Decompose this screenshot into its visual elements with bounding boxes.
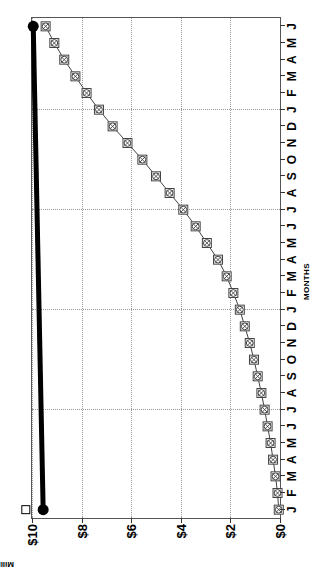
x-axis-tick-mark: [280, 75, 285, 76]
x-axis-tick-mark: [280, 309, 285, 310]
y-axis-tick-mark: [181, 518, 182, 523]
x-axis-tick-mark: [280, 242, 285, 243]
y-axis-tick-mark: [280, 518, 281, 523]
data-point-marker: [28, 21, 39, 32]
x-axis-tick-mark: [280, 59, 285, 60]
x-axis-tick-label: A: [285, 389, 299, 398]
x-axis-tick-mark: [280, 192, 285, 193]
x-axis-tick-mark: [280, 292, 285, 293]
x-axis-tick-label: A: [285, 189, 299, 198]
x-axis-tick-mark: [280, 275, 285, 276]
x-axis-tick-label: M: [285, 38, 299, 48]
x-axis-tick-mark: [280, 159, 285, 160]
x-axis-tick-mark: [280, 109, 285, 110]
x-axis-tick-label: M: [285, 438, 299, 448]
y-axis-tick-mark: [82, 518, 83, 523]
y-axis-tick-mark: [32, 518, 33, 523]
x-axis-tick-mark: [280, 425, 285, 426]
x-axis-tick-label: M: [285, 238, 299, 248]
x-axis-tick-label: A: [285, 255, 299, 264]
x-axis-tick-label: J: [285, 506, 299, 513]
x-axis-tick-label: F: [285, 89, 299, 96]
x-axis-tick-label: O: [285, 355, 299, 364]
x-axis-tick-label: J: [285, 23, 299, 30]
x-axis-tick-label: S: [285, 172, 299, 180]
x-axis-tick-mark: [280, 25, 285, 26]
y-axis-tick-label: $0: [273, 524, 288, 538]
x-axis-tick-label: F: [285, 489, 299, 496]
x-axis-tick-label: F: [285, 289, 299, 296]
x-axis-tick-mark: [280, 225, 285, 226]
x-axis-tick-label: D: [285, 322, 299, 331]
x-axis-tick-mark: [280, 492, 285, 493]
x-axis-tick-mark: [280, 209, 285, 210]
x-axis-tick-label: J: [285, 206, 299, 213]
x-axis-tick-mark: [280, 409, 285, 410]
x-axis-tick-mark: [280, 175, 285, 176]
x-axis-tick-label: J: [285, 223, 299, 230]
x-axis-tick-label: D: [285, 122, 299, 131]
x-axis-tick-label: M: [285, 271, 299, 281]
x-axis-tick-label: A: [285, 55, 299, 64]
plot-area: $0$2$4$6$8$10JFMAMJJASONDJFMAMJJASONDJFM…: [31, 17, 281, 519]
y-axis-tick-label: $8: [74, 524, 89, 538]
x-axis-tick-label: J: [285, 306, 299, 313]
x-axis-tick-mark: [280, 42, 285, 43]
x-axis-tick-label: M: [285, 471, 299, 481]
data-series-layer: [32, 18, 280, 518]
x-axis-tick-mark: [280, 342, 285, 343]
x-axis-tick-mark: [280, 459, 285, 460]
x-axis-tick-label: O: [285, 155, 299, 164]
x-axis-tick-label: M: [285, 71, 299, 81]
x-axis-tick-label: A: [285, 455, 299, 464]
y-axis-tick-mark: [230, 518, 231, 523]
x-axis-tick-mark: [280, 125, 285, 126]
y-axis-tick-label: $6: [124, 524, 139, 538]
x-axis-tick-mark: [280, 475, 285, 476]
x-axis-tick-label: J: [285, 423, 299, 430]
y-axis-title: Millions of Dollars: [0, 560, 14, 569]
x-axis-tick-mark: [280, 442, 285, 443]
x-axis-tick-mark: [280, 392, 285, 393]
y-axis-tick-label: $10: [25, 524, 40, 546]
x-axis-tick-mark: [280, 509, 285, 510]
x-axis-title: MONTHS: [302, 263, 311, 300]
x-axis-tick-label: N: [285, 139, 299, 148]
x-axis-tick-mark: [280, 259, 285, 260]
series-line: [33, 26, 43, 509]
y-axis-tick-label: $2: [223, 524, 238, 538]
x-axis-tick-mark: [280, 142, 285, 143]
x-axis-tick-mark: [280, 325, 285, 326]
y-axis-tick-mark: [131, 518, 132, 523]
x-axis-tick-mark: [280, 375, 285, 376]
x-axis-tick-label: J: [285, 106, 299, 113]
x-axis-tick-label: J: [285, 406, 299, 413]
x-axis-tick-label: S: [285, 372, 299, 380]
x-axis-tick-label: N: [285, 339, 299, 348]
x-axis-tick-mark: [280, 359, 285, 360]
data-point-marker: [38, 504, 49, 515]
y-axis-tick-label: $4: [173, 524, 188, 538]
data-point-marker: [22, 506, 30, 514]
x-axis-tick-mark: [280, 92, 285, 93]
series-line: [46, 26, 279, 509]
